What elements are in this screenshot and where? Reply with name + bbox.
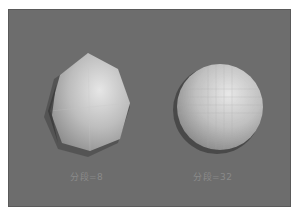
smooth-sphere-label: 分段=32: [193, 170, 233, 183]
3d-viewport[interactable]: 分段=8 分段=32: [8, 9, 291, 207]
smooth-sphere[interactable]: [168, 59, 268, 159]
low-poly-sphere[interactable]: [38, 45, 138, 165]
low-poly-sphere-label: 分段=8: [70, 170, 103, 183]
